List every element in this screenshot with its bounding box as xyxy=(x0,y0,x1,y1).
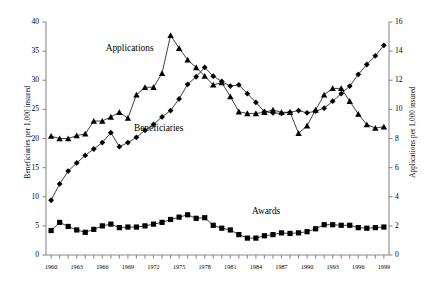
data-point-marker xyxy=(66,224,71,229)
data-point-marker xyxy=(159,70,165,76)
data-point-marker xyxy=(373,225,378,230)
data-point-marker xyxy=(117,225,122,230)
data-point-marker xyxy=(167,32,173,38)
data-point-marker xyxy=(125,140,131,146)
data-point-marker xyxy=(82,131,88,137)
data-point-marker xyxy=(313,226,318,231)
data-point-marker xyxy=(108,222,113,227)
data-point-marker xyxy=(356,225,361,230)
data-point-marker xyxy=(83,230,88,235)
data-point-marker xyxy=(57,220,62,225)
data-point-marker xyxy=(364,226,369,231)
data-point-marker xyxy=(91,227,96,232)
data-point-marker xyxy=(236,109,242,115)
data-point-marker xyxy=(227,83,233,89)
data-point-marker xyxy=(296,230,301,235)
data-point-marker xyxy=(57,181,63,187)
data-point-marker xyxy=(347,98,353,104)
data-point-marker xyxy=(177,215,182,220)
data-point-marker xyxy=(176,45,182,51)
plot-area xyxy=(0,0,437,282)
data-point-marker xyxy=(322,222,327,227)
data-point-marker xyxy=(100,223,105,228)
data-point-marker xyxy=(304,123,310,129)
data-point-marker xyxy=(253,236,258,241)
data-point-marker xyxy=(168,108,174,114)
data-point-marker xyxy=(304,229,309,234)
data-point-marker xyxy=(279,230,284,235)
data-point-marker xyxy=(108,114,114,120)
data-point-marker xyxy=(116,144,122,150)
data-point-marker xyxy=(125,224,130,229)
axis-lines xyxy=(46,22,389,255)
data-point-marker xyxy=(304,110,310,116)
data-point-marker xyxy=(355,111,361,117)
data-point-marker xyxy=(142,223,147,228)
data-point-marker xyxy=(321,92,327,98)
data-point-marker xyxy=(339,223,344,228)
data-point-marker xyxy=(91,146,97,152)
data-point-marker xyxy=(48,197,54,203)
data-point-marker xyxy=(287,231,292,236)
data-point-marker xyxy=(296,108,302,114)
data-point-marker xyxy=(228,227,233,232)
data-point-marker xyxy=(159,220,164,225)
data-point-marker xyxy=(134,224,139,229)
data-point-marker xyxy=(168,217,173,222)
data-point-marker xyxy=(227,93,233,99)
data-point-marker xyxy=(381,224,386,229)
data-point-marker xyxy=(202,215,207,220)
data-point-marker xyxy=(211,223,216,228)
data-series-layer xyxy=(48,32,387,240)
data-point-marker xyxy=(185,212,190,217)
chart-container: Beneficiaries per 1,000 insured Applicat… xyxy=(0,0,437,282)
data-point-marker xyxy=(116,109,122,115)
data-point-marker xyxy=(125,115,131,121)
data-point-marker xyxy=(219,226,224,231)
data-point-marker xyxy=(236,232,241,237)
data-point-marker xyxy=(184,57,190,63)
data-point-marker xyxy=(262,233,267,238)
data-point-marker xyxy=(48,133,54,139)
data-point-marker xyxy=(330,222,335,227)
data-point-marker xyxy=(194,216,199,221)
data-point-marker xyxy=(151,222,156,227)
data-point-marker xyxy=(245,236,250,241)
series-beneficiaries xyxy=(48,42,387,203)
data-point-marker xyxy=(74,227,79,232)
series-awards xyxy=(49,212,387,241)
series-applications xyxy=(48,32,387,141)
data-point-marker xyxy=(270,232,275,237)
data-point-marker xyxy=(381,124,387,130)
data-point-marker xyxy=(176,96,182,102)
data-point-marker xyxy=(49,228,54,233)
data-point-marker xyxy=(347,223,352,228)
